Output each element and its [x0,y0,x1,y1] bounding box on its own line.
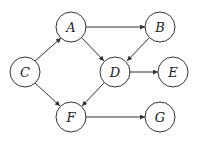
node-b: B [145,12,175,42]
node-g-label: G [155,110,165,125]
node-f: F [56,102,86,132]
node-e-label: E [167,65,178,80]
graph-canvas: A B C D E F G [0,0,201,141]
node-e: E [158,57,188,87]
node-d: D [100,57,130,87]
node-a-label: A [65,20,75,35]
node-c-label: C [20,65,30,80]
edge-d-f [82,83,104,106]
node-a: A [56,12,86,42]
node-b-label: B [154,20,165,35]
edge-c-f [35,83,60,106]
node-c: C [10,57,40,87]
node-g: G [145,102,175,132]
edge-a-d [82,38,104,61]
node-f-label: F [65,110,76,125]
edge-b-d [127,38,149,61]
node-d-label: D [109,65,121,80]
edge-c-a [35,38,61,61]
